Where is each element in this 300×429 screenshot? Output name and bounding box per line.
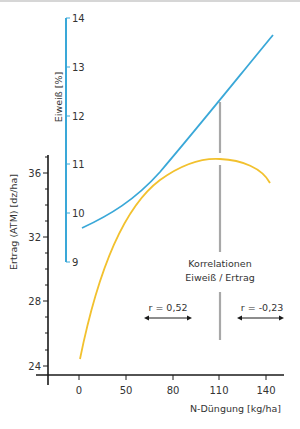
r-right-annotation: r = -0,23: [237, 302, 284, 321]
chart: 14 13 12 11 10 9 Eiweiß [%] 36 32 28 24 …: [0, 0, 300, 429]
r-right-label: r = -0,23: [241, 302, 284, 313]
arrow-right-icon: [279, 316, 284, 321]
x-axis-label: N-Düngung [kg/ha]: [190, 403, 281, 414]
arrow-left-icon: [144, 316, 149, 321]
protein-tick-12: 12: [72, 111, 85, 122]
protein-tick-10: 10: [72, 208, 85, 219]
x-tick-50: 50: [120, 385, 133, 396]
arrow-left-icon: [237, 316, 242, 321]
r-left-annotation: r = 0,52: [144, 302, 192, 321]
protein-tick-14: 14: [72, 13, 85, 24]
protein-axis-label: Eiweiß [%]: [53, 72, 64, 122]
correlation-title: Korrelationen: [188, 258, 251, 269]
x-tick-80: 80: [167, 385, 180, 396]
yield-axis: 36 32 28 24 Ertrag (ATM) [dz/ha]: [8, 155, 48, 385]
x-tick-110: 110: [209, 385, 228, 396]
yield-tick-24: 24: [28, 361, 41, 372]
x-tick-0: 0: [76, 385, 82, 396]
protein-axis: 14 13 12 11 10 9 Eiweiß [%]: [53, 13, 85, 268]
x-tick-140: 140: [256, 385, 275, 396]
x-axis: 0 50 80 110 140 N-Düngung [kg/ha]: [36, 375, 284, 414]
r-left-label: r = 0,52: [148, 302, 187, 313]
arrow-right-icon: [187, 316, 192, 321]
yield-tick-28: 28: [28, 296, 41, 307]
yield-tick-36: 36: [28, 168, 41, 179]
protein-tick-11: 11: [72, 159, 85, 170]
yield-tick-32: 32: [28, 232, 41, 243]
correlation-subtitle: Eiweiß / Ertrag: [185, 272, 255, 283]
protein-curve: [82, 35, 273, 228]
protein-tick-13: 13: [72, 62, 85, 73]
protein-tick-9: 9: [72, 257, 78, 268]
yield-axis-label: Ertrag (ATM) [dz/ha]: [8, 174, 19, 270]
